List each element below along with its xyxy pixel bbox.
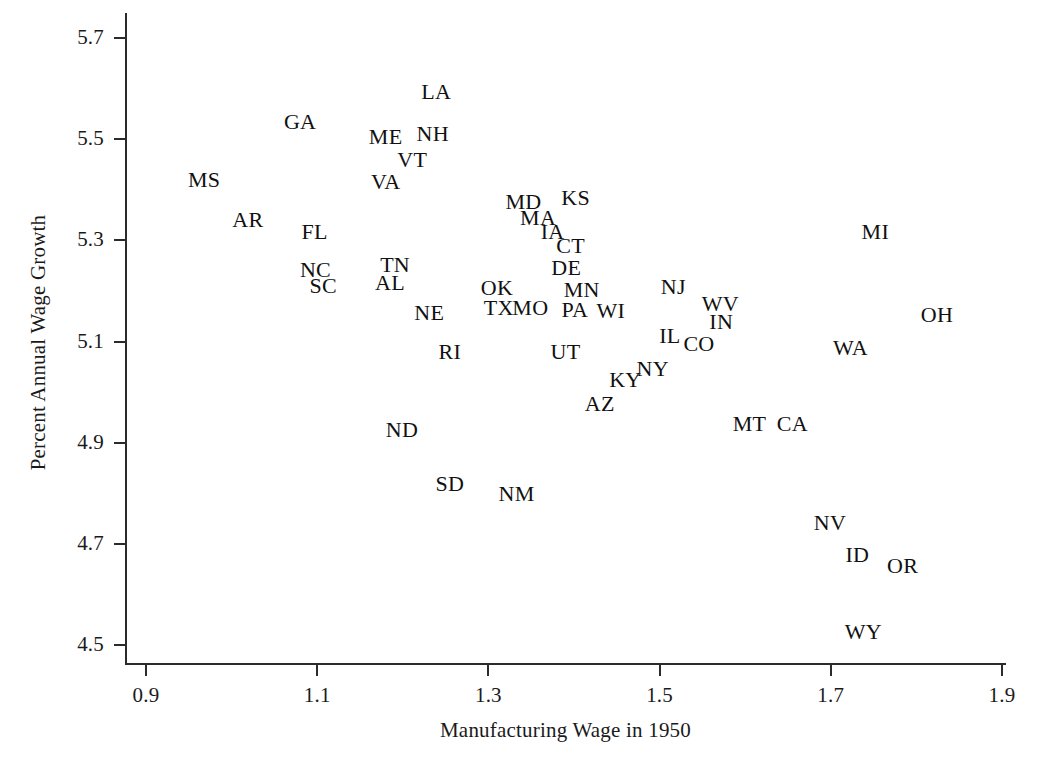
data-point-label: ME [369,126,403,148]
data-point-label: UT [550,341,580,363]
x-axis-title: Manufacturing Wage in 1950 [125,718,1006,743]
x-axis-tick-label: 1.5 [620,684,700,706]
x-axis-tick [145,665,147,676]
scatter-plot-figure: 4.54.74.95.15.35.55.7 0.91.11.31.51.71.9… [0,0,1044,768]
x-axis-tick [659,665,661,676]
x-axis-tick [316,665,318,676]
x-axis-tick-label: 1.1 [277,684,357,706]
data-point-label: ID [845,544,869,566]
x-axis-tick-label: 1.3 [448,684,528,706]
data-point-label: AL [375,272,405,294]
data-point-label: NM [499,483,535,505]
y-axis-tick [114,37,125,39]
plot-area: 4.54.74.95.15.35.55.7 0.91.11.31.51.71.9… [0,0,1044,768]
y-axis-tick-label: 5.1 [42,331,104,352]
data-point-label: IL [659,325,680,347]
data-point-label: WA [833,337,868,359]
data-point-label: DE [551,257,581,279]
y-axis-tick-label: 5.7 [42,27,104,48]
data-point-label: MS [188,169,220,191]
y-axis-tick-label: 4.9 [42,432,104,453]
data-point-label: MO [512,297,548,319]
y-axis-tick [114,644,125,646]
data-point-label: CA [777,413,808,435]
y-axis-tick [114,138,125,140]
data-point-label: VA [371,171,401,193]
data-point-label: KS [561,187,590,209]
data-point-label: GA [284,111,316,133]
data-point-label: CO [683,333,714,355]
data-point-label: SC [309,275,337,297]
data-point-label: SD [436,473,465,495]
data-point-label: MT [733,413,767,435]
y-axis-tick-label: 4.7 [42,533,104,554]
x-axis-line [125,663,1006,665]
x-axis-tick [487,665,489,676]
y-axis-tick-label-wrap: 4.5 [28,634,104,655]
y-axis-line [125,13,127,665]
data-point-label: PA [561,299,588,321]
data-point-label: WY [845,621,882,643]
y-axis-tick [114,543,125,545]
y-axis-tick-label: 5.5 [42,128,104,149]
data-point-label: KY [609,369,641,391]
data-point-label: LA [421,81,451,103]
data-point-label: WI [596,300,625,322]
x-axis-tick [830,665,832,676]
data-point-label: VT [397,149,427,171]
data-point-label: FL [301,221,327,243]
data-point-label: NV [814,512,846,534]
data-point-label: IN [709,311,733,333]
y-axis-tick-label-wrap: 5.7 [28,27,104,48]
data-point-label: TX [484,297,514,319]
y-axis-tick-label: 4.5 [42,634,104,655]
x-axis-tick-label: 1.7 [791,684,871,706]
x-axis-tick-label: 1.9 [962,684,1042,706]
y-axis-tick [114,341,125,343]
data-point-label: ND [386,419,418,441]
data-point-label: MI [862,221,890,243]
data-point-label: AR [232,209,263,231]
y-axis-tick [114,239,125,241]
y-axis-tick-label: 5.3 [42,229,104,250]
data-point-label: NE [414,302,444,324]
data-point-label: AZ [585,393,615,415]
y-axis-title: Percent Annual Wage Growth [26,123,51,563]
data-point-label: OH [921,304,953,326]
data-point-label: RI [439,341,462,363]
data-point-label: OR [887,555,918,577]
y-axis-tick [114,442,125,444]
x-axis-tick-label: 0.9 [106,684,186,706]
data-point-label: NJ [661,276,686,298]
data-point-label: NH [417,123,449,145]
data-point-label: CT [556,235,585,257]
x-axis-tick [1001,665,1003,676]
